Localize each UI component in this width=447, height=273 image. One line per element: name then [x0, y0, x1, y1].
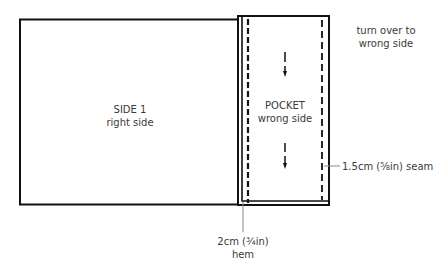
grain-arrow-top — [283, 52, 287, 77]
instruction-label: turn over to wrong side — [346, 24, 426, 50]
hem-label-line2: hem — [213, 248, 273, 261]
grain-arrow-bottom — [283, 143, 287, 169]
instruction-line1: turn over to — [346, 24, 426, 37]
instruction-line2: wrong side — [346, 37, 426, 50]
side1-subtitle: right side — [100, 116, 160, 129]
hem-label: 2cm (¾in) hem — [213, 235, 273, 261]
side1-title: SIDE 1 — [100, 103, 160, 116]
pocket-label: POCKET wrong side — [254, 99, 316, 125]
seam-label: 1.5cm (⅝in) seam — [342, 160, 433, 173]
pocket-subtitle: wrong side — [254, 112, 316, 125]
pocket-title: POCKET — [254, 99, 316, 112]
hem-label-line1: 2cm (¾in) — [213, 235, 273, 248]
side1-label: SIDE 1 right side — [100, 103, 160, 129]
